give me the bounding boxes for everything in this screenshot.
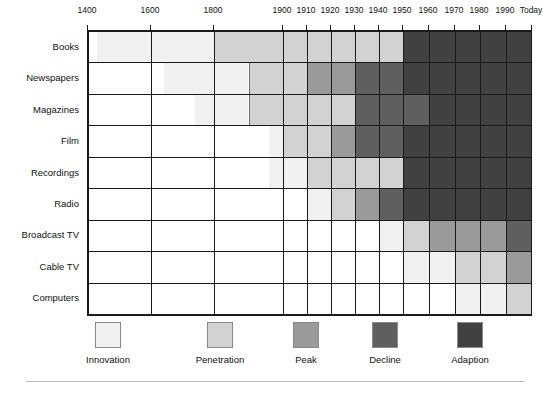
- chart-row-film[interactable]: [88, 126, 531, 157]
- bar-segment-penetration[interactable]: [283, 126, 331, 156]
- bar-segment-innovation[interactable]: [269, 158, 307, 188]
- bar-segment-penetration[interactable]: [331, 189, 355, 219]
- row-label-computers: Computers: [33, 293, 79, 303]
- axis-tick-label-1900: 1900: [273, 6, 292, 15]
- bar-segment-innovation[interactable]: [403, 252, 455, 282]
- bar-segment-peak[interactable]: [331, 126, 355, 156]
- bar-segment-penetration[interactable]: [403, 221, 429, 251]
- chart-row-radio[interactable]: [88, 189, 531, 220]
- footer-rule: [26, 381, 524, 382]
- row-label-radio: Radio: [54, 199, 79, 209]
- legend-swatch-decline: [372, 322, 398, 348]
- bar-segment-innovation[interactable]: [164, 63, 249, 93]
- bar-segment-decline[interactable]: [355, 63, 403, 93]
- legend-swatch-peak: [293, 322, 319, 348]
- row-label-film: Film: [61, 136, 79, 146]
- axis-tick-label-1970: 1970: [445, 6, 464, 15]
- bar-segment-peak[interactable]: [429, 221, 506, 251]
- legend: InnovationPenetrationPeakDeclineAdaption: [0, 322, 543, 374]
- plot-area: [87, 31, 532, 316]
- chart-row-cable-tv[interactable]: [88, 252, 531, 283]
- bar-segment-penetration[interactable]: [249, 95, 356, 125]
- chart-row-recordings[interactable]: [88, 158, 531, 189]
- bar-segment-innovation[interactable]: [269, 126, 283, 156]
- axis-tick-label-1980: 1980: [470, 6, 489, 15]
- axis-tick-label-1400: 1400: [78, 6, 97, 15]
- legend-item-adaption[interactable]: Adaption: [420, 322, 520, 365]
- axis-tick-label-1990: 1990: [496, 6, 515, 15]
- bar-segment-penetration[interactable]: [249, 63, 308, 93]
- bar-segment-adaption[interactable]: [403, 126, 532, 156]
- bar-segment-adaption[interactable]: [403, 189, 532, 219]
- bar-segment-adaption[interactable]: [403, 63, 532, 93]
- legend-item-innovation[interactable]: Innovation: [58, 322, 158, 365]
- legend-swatch-innovation: [95, 322, 121, 348]
- row-label-cable-tv: Cable TV: [40, 262, 79, 272]
- bar-segment-adaption[interactable]: [403, 32, 532, 62]
- category-labels: BooksNewspapersMagazinesFilmRecordingsRa…: [0, 31, 83, 316]
- bar-segment-decline[interactable]: [379, 189, 403, 219]
- chart-row-broadcast-tv[interactable]: [88, 221, 531, 252]
- bar-segment-decline[interactable]: [506, 221, 532, 251]
- legend-item-penetration[interactable]: Penetration: [170, 322, 270, 365]
- bar-segment-innovation[interactable]: [455, 284, 506, 314]
- bar-segment-decline[interactable]: [355, 95, 429, 125]
- axis-tick-label-1940: 1940: [369, 6, 388, 15]
- bar-segment-penetration[interactable]: [506, 284, 532, 314]
- chart-row-newspapers[interactable]: [88, 63, 531, 94]
- bar-segment-innovation[interactable]: [195, 95, 248, 125]
- bar-segment-peak[interactable]: [355, 189, 379, 219]
- chart-row-computers[interactable]: [88, 284, 531, 315]
- legend-swatch-penetration: [207, 322, 233, 348]
- bar-segment-innovation[interactable]: [97, 32, 214, 62]
- row-label-recordings: Recordings: [31, 168, 79, 178]
- bar-segment-innovation[interactable]: [379, 221, 403, 251]
- bar-segment-peak[interactable]: [506, 252, 532, 282]
- row-label-broadcast-tv: Broadcast TV: [22, 230, 79, 240]
- axis-tick-label-1800: 1800: [204, 6, 223, 15]
- row-label-newspapers: Newspapers: [26, 73, 79, 83]
- legend-label-adaption: Adaption: [420, 355, 520, 365]
- row-label-magazines: Magazines: [33, 105, 79, 115]
- legend-label-innovation: Innovation: [58, 355, 158, 365]
- legend-label-penetration: Penetration: [170, 355, 270, 365]
- bar-segment-penetration[interactable]: [214, 32, 403, 62]
- chart-row-magazines[interactable]: [88, 95, 531, 126]
- bar-segment-penetration[interactable]: [455, 252, 506, 282]
- chart-row-books[interactable]: [88, 32, 531, 63]
- row-label-books: Books: [53, 42, 79, 52]
- axis-tick-label-1930: 1930: [345, 6, 364, 15]
- axis-tick-label-1950: 1950: [393, 6, 412, 15]
- media-lifecycle-chart: 1400160018001900191019201930194019501960…: [0, 0, 543, 395]
- bar-segment-adaption[interactable]: [403, 158, 532, 188]
- axis-tick-label-1910: 1910: [297, 6, 316, 15]
- bar-segment-penetration[interactable]: [307, 158, 403, 188]
- bar-segment-decline[interactable]: [355, 126, 403, 156]
- axis-tick-label-1960: 1960: [419, 6, 438, 15]
- axis-tick-label-1600: 1600: [141, 6, 160, 15]
- axis-tick-label-today: Today: [520, 6, 543, 15]
- bar-segment-innovation[interactable]: [307, 189, 331, 219]
- axis-tick-label-1920: 1920: [321, 6, 340, 15]
- bar-segment-peak[interactable]: [307, 63, 355, 93]
- x-axis: 1400160018001900191019201930194019501960…: [0, 0, 543, 26]
- bar-segment-adaption[interactable]: [429, 95, 532, 125]
- legend-swatch-adaption: [457, 322, 483, 348]
